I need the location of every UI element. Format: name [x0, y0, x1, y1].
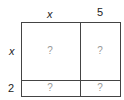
side-label-2: 2: [8, 83, 14, 94]
top-label-x: x: [47, 9, 53, 20]
top-label-5: 5: [97, 7, 103, 18]
cell-value-2-5: ?: [97, 83, 103, 93]
cell-value-2-x: ?: [47, 83, 53, 93]
cell-value-x-5: ?: [97, 46, 103, 56]
cell-value-x-x: ?: [47, 46, 53, 56]
side-label-x: x: [9, 46, 15, 57]
